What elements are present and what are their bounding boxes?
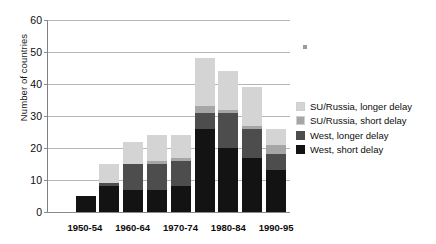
bar-segment — [171, 161, 191, 187]
x-axis-labels: 1950-541960-641970-741980-841990-95 — [47, 222, 290, 238]
bar-segment — [266, 170, 286, 212]
y-axis-tick-label: 60 — [30, 15, 42, 26]
bar-slot — [240, 20, 264, 212]
y-axis-tick-mark — [44, 212, 48, 213]
y-axis-tick-label: 50 — [30, 47, 42, 58]
x-axis-slot: 1980-84 — [216, 222, 240, 238]
stacked-bar — [171, 135, 191, 212]
bar-segment — [195, 129, 215, 212]
x-axis-tick-label: 1990-95 — [259, 222, 294, 233]
bar-segment — [147, 190, 167, 212]
bar-segment — [123, 190, 143, 212]
x-axis-slot: 1950-54 — [73, 222, 97, 238]
legend-item: West, short delay — [296, 143, 434, 158]
x-axis-slot: 1970-74 — [169, 222, 193, 238]
stacked-bar — [76, 196, 96, 212]
bar-segment — [266, 154, 286, 170]
legend: SU/Russia, longer delaySU/Russia, short … — [296, 99, 434, 157]
legend-label: SU/Russia, longer delay — [310, 101, 412, 112]
stacked-bar — [147, 135, 167, 212]
x-axis-slot: 1960-64 — [121, 222, 145, 238]
x-axis-slot: 1990-95 — [264, 222, 288, 238]
stacked-bar-chart: Number of countries 0102030405060 1950-5… — [0, 0, 436, 244]
bar-segment — [76, 196, 96, 212]
legend-swatch — [296, 102, 305, 111]
y-axis-tick-label: 30 — [30, 111, 42, 122]
bar-segment — [195, 58, 215, 106]
stacked-bar — [242, 87, 262, 212]
stacked-bar — [218, 71, 238, 212]
bar-segment — [147, 164, 167, 190]
stacked-bar — [123, 142, 143, 212]
legend-item: West, longer delay — [296, 128, 434, 143]
bar-segment — [99, 164, 119, 183]
legend-swatch — [296, 116, 305, 125]
bar-slot — [169, 20, 193, 212]
y-axis-tick-label: 10 — [30, 175, 42, 186]
bar-segment — [171, 186, 191, 212]
y-axis-title: Number of countries — [18, 3, 29, 153]
bar-segment — [195, 113, 215, 129]
plot-inner: 0102030405060 — [48, 20, 290, 212]
bar-slot — [264, 20, 288, 212]
bar-segment — [171, 135, 191, 157]
stacked-bar — [195, 58, 215, 212]
bar-slot — [98, 20, 122, 212]
bar-slot — [145, 20, 169, 212]
bar-slot — [121, 20, 145, 212]
legend-swatch — [296, 145, 305, 154]
bar-segment — [218, 71, 238, 109]
bar-segment — [242, 158, 262, 212]
bar-slot — [74, 20, 98, 212]
bar-segment — [218, 148, 238, 212]
bar-segment — [242, 87, 262, 125]
bar-slot — [217, 20, 241, 212]
bar-segment — [99, 186, 119, 212]
stacked-bar — [266, 129, 286, 212]
y-axis-tick-label: 0 — [36, 207, 42, 218]
legend-label: West, short delay — [310, 144, 383, 155]
legend-item: SU/Russia, short delay — [296, 114, 434, 129]
bar-segment — [266, 145, 286, 155]
bar-slot — [193, 20, 217, 212]
stacked-bar — [99, 164, 119, 212]
legend-item: SU/Russia, longer delay — [296, 99, 434, 114]
bar-slot — [50, 20, 74, 212]
legend-swatch — [296, 131, 305, 140]
bar-segment — [266, 129, 286, 145]
bar-segment — [218, 113, 238, 148]
y-axis-tick-label: 20 — [30, 143, 42, 154]
scan-artifact — [303, 45, 307, 49]
bar-segment — [123, 164, 143, 190]
legend-label: West, longer delay — [310, 130, 389, 141]
plot-area: 0102030405060 — [47, 20, 290, 212]
y-axis-tick-label: 40 — [30, 79, 42, 90]
bar-segment — [147, 135, 167, 161]
bar-segment — [123, 142, 143, 164]
bar-segment — [242, 129, 262, 158]
legend-label: SU/Russia, short delay — [310, 115, 407, 126]
bar-group — [48, 20, 290, 212]
